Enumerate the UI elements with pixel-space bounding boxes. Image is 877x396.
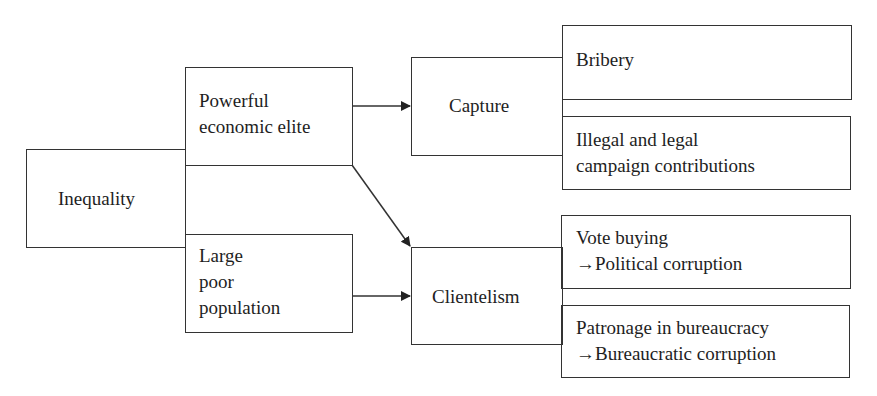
arrows-layer bbox=[0, 0, 877, 396]
arrow-elite-to-clientelism bbox=[352, 165, 410, 246]
